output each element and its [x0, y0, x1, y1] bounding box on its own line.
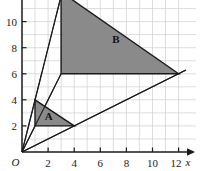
- y-tick-label-4: 4: [12, 94, 18, 106]
- y-tick-label-6: 6: [12, 68, 18, 80]
- coordinate-grid-figure: 2 4 6 8 10 12 2 4 6 8 10 x O A B: [0, 0, 202, 171]
- y-tick-label-2: 2: [12, 120, 18, 132]
- x-tick-label-10: 10: [147, 157, 159, 169]
- x-tick-label-8: 8: [124, 157, 130, 169]
- y-tick-label-8: 8: [12, 42, 18, 54]
- x-tick-label-6: 6: [98, 157, 104, 169]
- triangle-b-label: B: [112, 33, 120, 45]
- triangle-a-label: A: [45, 110, 53, 122]
- origin-label: O: [12, 156, 20, 168]
- x-axis-label: x: [185, 156, 191, 168]
- y-tick-label-10: 10: [6, 16, 18, 28]
- x-tick-label-12: 12: [171, 157, 182, 169]
- figure-svg: 2 4 6 8 10 12 2 4 6 8 10 x O A B: [0, 0, 202, 171]
- x-tick-label-4: 4: [71, 157, 77, 169]
- x-tick-label-2: 2: [45, 157, 51, 169]
